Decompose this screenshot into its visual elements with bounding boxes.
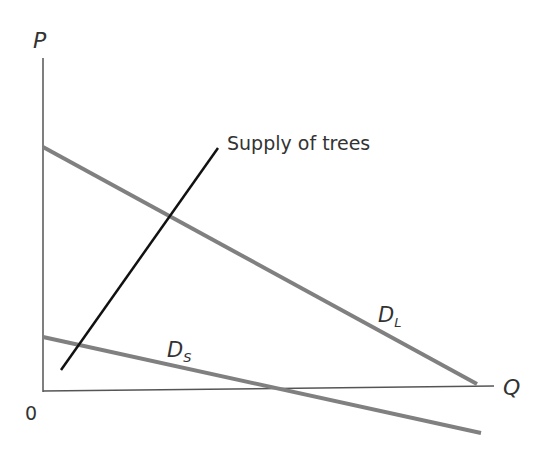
demand-short-label: DS [167, 338, 191, 365]
demand-long-label: DL [378, 303, 401, 330]
supply-curve [61, 148, 218, 370]
y-axis-label: P [33, 28, 47, 53]
supply-demand-diagram: P Q 0 Supply of trees DL DS [0, 0, 547, 458]
x-axis-label: Q [503, 375, 520, 400]
demand-long-curve [43, 147, 477, 384]
supply-label: Supply of trees [227, 132, 370, 154]
origin-label: 0 [25, 402, 37, 424]
